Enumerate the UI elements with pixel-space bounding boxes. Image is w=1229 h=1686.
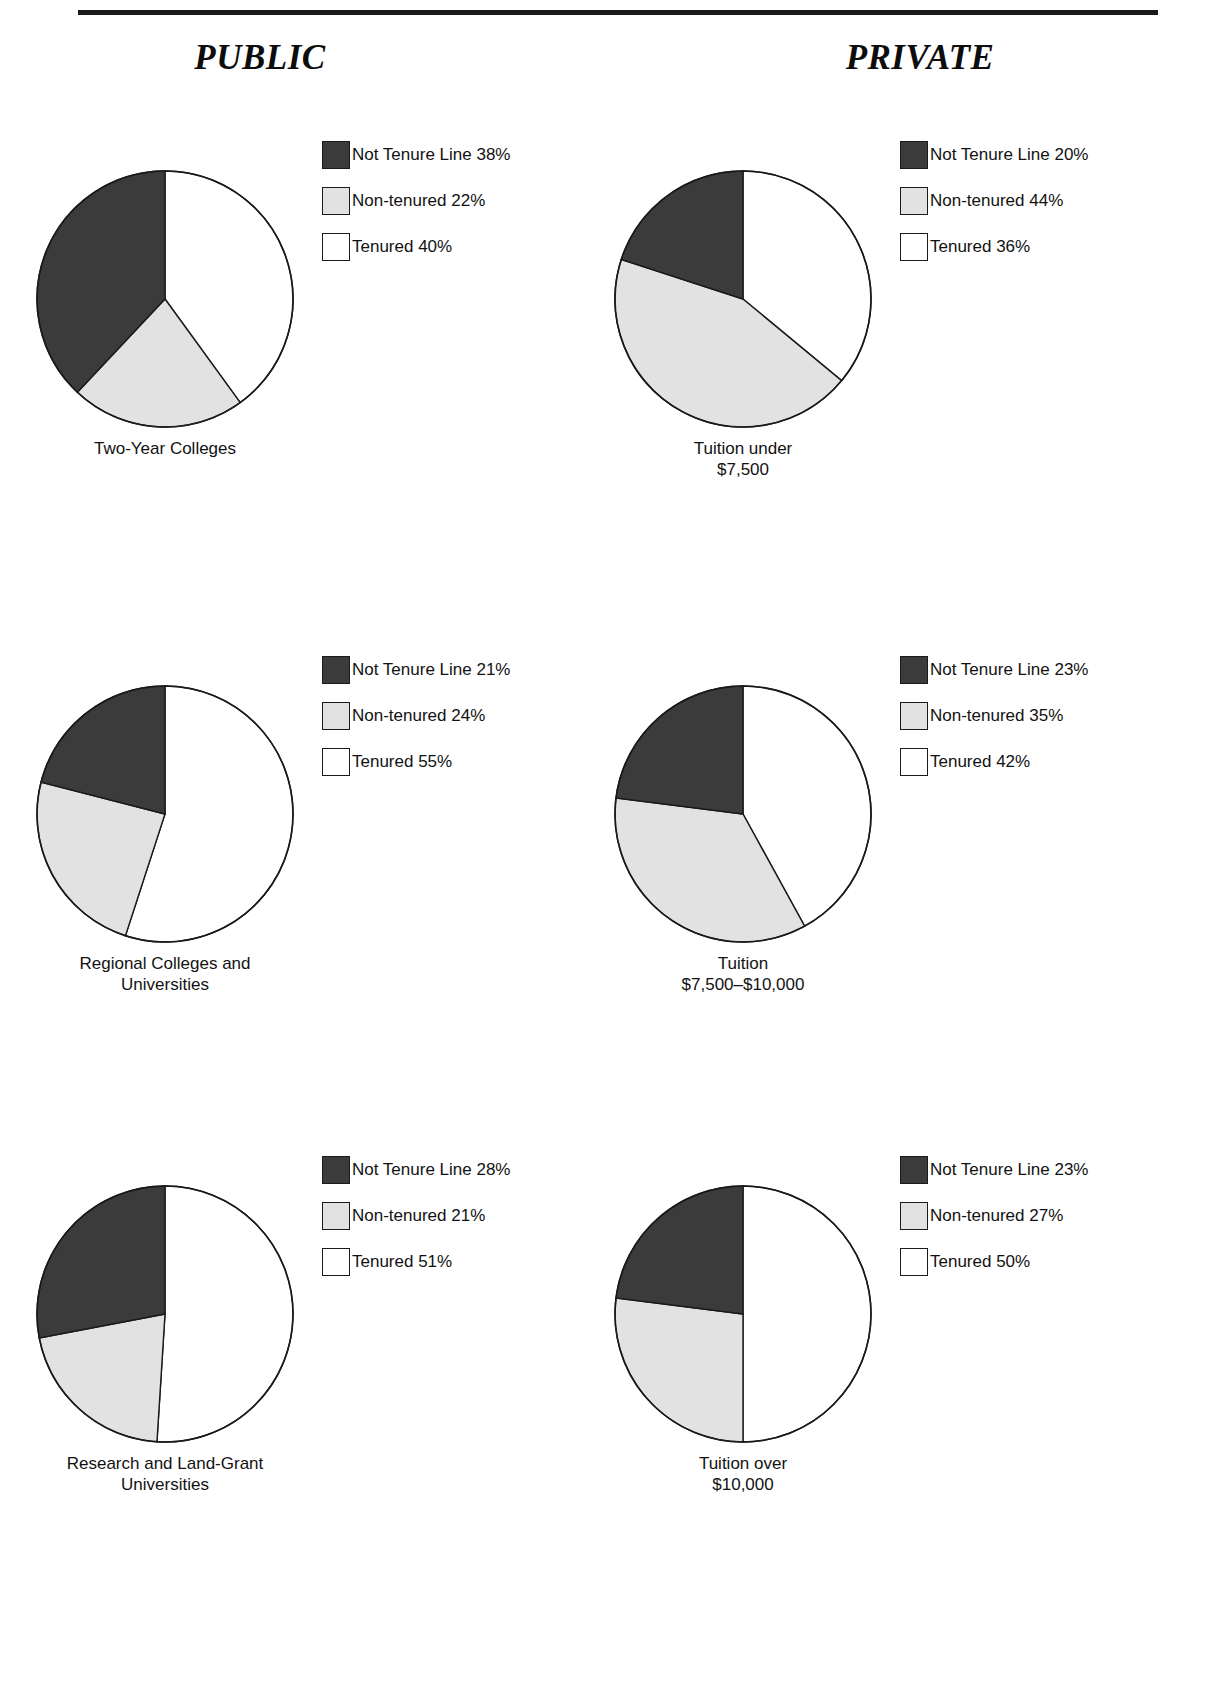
pie-caption: Tuition under $7,500 (578, 438, 908, 480)
legend-item: Non-tenured 24% (322, 693, 602, 739)
pie-chart (34, 168, 296, 430)
pie-slice (616, 686, 743, 814)
legend-label: Tenured 42% (930, 752, 1030, 772)
pie-slice (743, 1186, 871, 1442)
legend-item: Non-tenured 27% (900, 1193, 1180, 1239)
pie-chart (34, 683, 296, 945)
legend-label: Tenured 55% (352, 752, 452, 772)
pie-slice (616, 1186, 743, 1314)
legend-swatch-non-tenured-icon (322, 702, 350, 730)
legend-item: Tenured 36% (900, 224, 1180, 270)
legend-item: Not Tenure Line 20% (900, 132, 1180, 178)
legend-swatch-tenured-icon (322, 1248, 350, 1276)
pie-caption: Tuition over $10,000 (578, 1453, 908, 1495)
column-header-private: PRIVATE (760, 38, 1080, 78)
legend-item: Not Tenure Line 28% (322, 1147, 602, 1193)
legend-item: Tenured 51% (322, 1239, 602, 1285)
legend-label: Tenured 50% (930, 1252, 1030, 1272)
legend-swatch-tenured-icon (900, 233, 928, 261)
chart-cell: Tuition under $7,500 Not Tenure Line 20%… (578, 120, 1192, 500)
legend-label: Not Tenure Line 28% (352, 1160, 510, 1180)
legend-label: Not Tenure Line 21% (352, 660, 510, 680)
legend-swatch-not-tenure-line-icon (322, 656, 350, 684)
legend-swatch-tenured-icon (900, 748, 928, 776)
chart-cell: Two-Year Colleges Not Tenure Line 38% No… (0, 120, 614, 500)
legend-label: Not Tenure Line 23% (930, 660, 1088, 680)
pie-caption: Research and Land-Grant Universities (0, 1453, 330, 1495)
legend-item: Tenured 55% (322, 739, 602, 785)
pie-caption: Tuition $7,500–$10,000 (578, 953, 908, 995)
legend-label: Non-tenured 35% (930, 706, 1063, 726)
legend-item: Non-tenured 22% (322, 178, 602, 224)
chart-cell: Research and Land-Grant Universities Not… (0, 1135, 614, 1515)
chart-legend: Not Tenure Line 23% Non-tenured 27% Tenu… (900, 1147, 1180, 1285)
legend-label: Non-tenured 21% (352, 1206, 485, 1226)
legend-swatch-tenured-icon (322, 233, 350, 261)
legend-swatch-non-tenured-icon (322, 1202, 350, 1230)
legend-item: Tenured 42% (900, 739, 1180, 785)
pie-chart (612, 683, 874, 945)
chart-legend: Not Tenure Line 38% Non-tenured 22% Tenu… (322, 132, 602, 270)
legend-swatch-tenured-icon (900, 1248, 928, 1276)
pie-caption: Regional Colleges and Universities (0, 953, 330, 995)
legend-label: Tenured 51% (352, 1252, 452, 1272)
legend-label: Tenured 36% (930, 237, 1030, 257)
chart-legend: Not Tenure Line 28% Non-tenured 21% Tenu… (322, 1147, 602, 1285)
chart-cell: Tuition $7,500–$10,000 Not Tenure Line 2… (578, 635, 1192, 1015)
legend-label: Tenured 40% (352, 237, 452, 257)
legend-label: Non-tenured 22% (352, 191, 485, 211)
column-header-public: PUBLIC (100, 38, 420, 78)
legend-item: Not Tenure Line 23% (900, 647, 1180, 693)
legend-label: Not Tenure Line 23% (930, 1160, 1088, 1180)
pie-slice (37, 1186, 165, 1338)
legend-swatch-non-tenured-icon (900, 187, 928, 215)
legend-swatch-not-tenure-line-icon (900, 1156, 928, 1184)
chart-legend: Not Tenure Line 21% Non-tenured 24% Tenu… (322, 647, 602, 785)
chart-legend: Not Tenure Line 20% Non-tenured 44% Tenu… (900, 132, 1180, 270)
legend-swatch-non-tenured-icon (900, 1202, 928, 1230)
chart-row: Research and Land-Grant Universities Not… (0, 1135, 1229, 1515)
pie-slice (157, 1186, 293, 1442)
legend-item: Non-tenured 44% (900, 178, 1180, 224)
pie-chart (612, 168, 874, 430)
legend-label: Non-tenured 24% (352, 706, 485, 726)
legend-swatch-not-tenure-line-icon (322, 141, 350, 169)
legend-item: Not Tenure Line 21% (322, 647, 602, 693)
legend-item: Tenured 40% (322, 224, 602, 270)
legend-swatch-not-tenure-line-icon (900, 141, 928, 169)
legend-label: Non-tenured 27% (930, 1206, 1063, 1226)
legend-swatch-tenured-icon (322, 748, 350, 776)
chart-cell: Tuition over $10,000 Not Tenure Line 23%… (578, 1135, 1192, 1515)
chart-legend: Not Tenure Line 23% Non-tenured 35% Tenu… (900, 647, 1180, 785)
pie-slice (615, 1298, 743, 1442)
legend-item: Tenured 50% (900, 1239, 1180, 1285)
legend-item: Not Tenure Line 38% (322, 132, 602, 178)
legend-swatch-non-tenured-icon (322, 187, 350, 215)
legend-label: Not Tenure Line 20% (930, 145, 1088, 165)
document-page: PUBLIC PRIVATE Two-Year Colleges Not Ten… (0, 0, 1229, 1686)
pie-chart (34, 1183, 296, 1445)
legend-label: Non-tenured 44% (930, 191, 1063, 211)
chart-row: Regional Colleges and Universities Not T… (0, 635, 1229, 1015)
legend-swatch-not-tenure-line-icon (900, 656, 928, 684)
legend-swatch-not-tenure-line-icon (322, 1156, 350, 1184)
pie-chart (612, 1183, 874, 1445)
legend-label: Not Tenure Line 38% (352, 145, 510, 165)
chart-cell: Regional Colleges and Universities Not T… (0, 635, 614, 1015)
legend-item: Not Tenure Line 23% (900, 1147, 1180, 1193)
chart-row: Two-Year Colleges Not Tenure Line 38% No… (0, 120, 1229, 500)
legend-item: Non-tenured 35% (900, 693, 1180, 739)
pie-caption: Two-Year Colleges (0, 438, 330, 459)
legend-swatch-non-tenured-icon (900, 702, 928, 730)
header-rule (78, 10, 1158, 15)
legend-item: Non-tenured 21% (322, 1193, 602, 1239)
